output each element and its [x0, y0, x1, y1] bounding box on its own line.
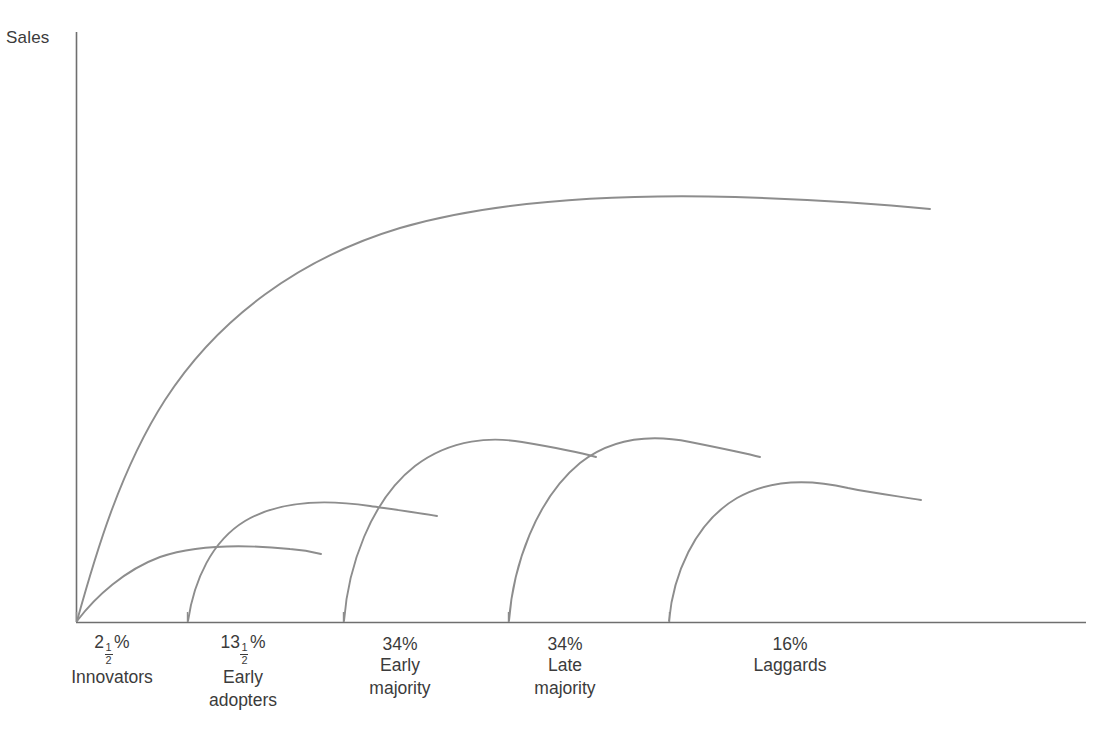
- y-axis-title: Sales: [6, 28, 50, 48]
- percent-sign-innovators: %: [114, 632, 130, 652]
- category-name-early-adopters-line1: Early: [173, 666, 313, 689]
- percent-sign-early-adopters: %: [250, 632, 266, 652]
- percent-fraction-early-adopters: 12: [240, 642, 248, 666]
- category-label-innovators: 212% Innovators: [42, 632, 182, 689]
- category-label-laggards: 16% Laggards: [720, 634, 860, 677]
- category-percent-early-majority: 34%: [330, 634, 470, 654]
- category-name-early-majority-line2: majority: [330, 677, 470, 700]
- percent-whole-innovators: 2: [94, 632, 104, 652]
- category-percent-late-majority: 34%: [495, 634, 635, 654]
- category-name-innovators-line1: Innovators: [42, 666, 182, 689]
- percent-whole-early-adopters: 13: [220, 632, 239, 652]
- category-label-early-adopters: 1312% Early adopters: [173, 632, 313, 712]
- fraction-numerator-innovators: 1: [105, 642, 113, 655]
- category-name-early-majority-line1: Early: [330, 654, 470, 677]
- category-name-laggards-line1: Laggards: [720, 654, 860, 677]
- cumulative-adoption-curve: [77, 196, 930, 621]
- adoption-curve-early-adopters: [188, 502, 437, 621]
- category-label-late-majority: 34% Late majority: [495, 634, 635, 700]
- adoption-curve-late-majority: [509, 438, 760, 621]
- category-name-late-majority-line1: Late: [495, 654, 635, 677]
- x-axis-ticks: [77, 612, 670, 622]
- category-percent-innovators: 212%: [42, 632, 182, 666]
- category-percent-laggards: 16%: [720, 634, 860, 654]
- fraction-denominator-innovators: 2: [105, 655, 113, 667]
- category-name-early-adopters-line2: adopters: [173, 689, 313, 712]
- category-label-early-majority: 34% Early majority: [330, 634, 470, 700]
- category-percent-early-adopters: 1312%: [173, 632, 313, 666]
- adoption-curve-early-majority: [344, 440, 596, 621]
- fraction-denominator-early-adopters: 2: [240, 655, 248, 667]
- category-name-late-majority-line2: majority: [495, 677, 635, 700]
- diffusion-of-innovation-chart: Sales 212% Innovators 1312% Early adopte…: [0, 0, 1107, 743]
- percent-fraction-innovators: 12: [105, 642, 113, 666]
- fraction-numerator-early-adopters: 1: [240, 642, 248, 655]
- adoption-curve-laggards: [669, 482, 921, 621]
- adoption-curve-innovators: [77, 546, 321, 621]
